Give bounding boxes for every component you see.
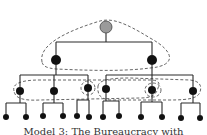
node-b2 [148,86,156,94]
node-a2 [50,87,58,95]
node-a2r [60,113,66,119]
node-a2l [40,113,46,119]
node-a1 [16,87,24,95]
node-a [51,55,61,65]
node-b3l [178,115,184,121]
node-b3r [197,115,203,121]
node-b [147,55,157,65]
connector-b3 [181,95,200,115]
node-a1l [3,114,9,120]
connector-root [56,33,152,55]
node-a1r [23,114,29,120]
bureaucracy-tree-diagram [0,0,207,135]
node-b2r [159,114,165,120]
node-a3l [74,113,80,119]
connector-b2 [141,94,162,114]
node-b1 [102,85,110,93]
tree-edges [6,33,200,115]
node-a3r [86,114,92,120]
connector-a [20,65,88,87]
node-b1l [100,114,106,120]
connector-a2 [43,95,63,113]
root-node [100,21,112,33]
connector-b1 [103,93,119,114]
node-a3 [84,84,92,92]
node-b3 [189,87,197,95]
node-b1r [116,113,122,119]
node-b2l [138,114,144,120]
connector-a1 [6,95,26,114]
figure-caption: Model 3: The Bureaucracy with [0,126,207,135]
